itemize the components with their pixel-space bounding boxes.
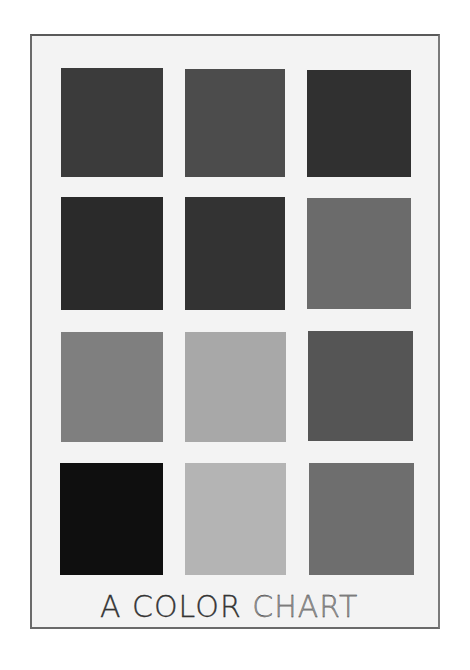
color-swatch-r1c2 [185,69,285,177]
color-swatch-r4c1 [60,463,163,575]
color-swatch-r1c1 [61,68,163,177]
color-swatch-r2c1 [61,197,163,310]
color-swatch-r3c2 [185,332,286,442]
color-swatch-r3c3 [308,331,413,441]
color-swatch-r2c3 [307,198,411,309]
caption-part-2: CHART [252,589,358,624]
color-swatch-r1c3 [307,70,411,177]
chart-caption: A COLOR CHART [100,589,360,624]
color-swatch-r4c2 [185,463,286,575]
color-swatch-r2c2 [185,197,285,310]
caption-part-1: A COLOR [100,589,242,624]
color-swatch-r3c1 [61,332,163,442]
color-swatch-r4c3 [309,463,414,575]
